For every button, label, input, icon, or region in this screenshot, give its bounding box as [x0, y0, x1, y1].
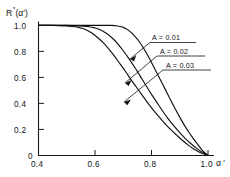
y-tick-label-1.0: 1.0 [14, 22, 26, 31]
curves-group [39, 25, 209, 155]
y-axis-label-arg: (α') [16, 8, 28, 18]
annotation-label-a-0.01: A = 0.01 [152, 33, 180, 42]
x-axis-label: α ' [216, 158, 225, 168]
chart-figure: R * (α') 1.0 0.8 0.6 0.4 0.2 0 [0, 0, 230, 177]
annotation-a-0.03: A = 0.03 [124, 61, 211, 106]
x-tick-label-0.6: 0.6 [88, 160, 100, 169]
x-tick-label-0.8: 0.8 [144, 160, 156, 169]
annotation-arrow-a-0.02 [125, 80, 132, 86]
x-axis-ticks [39, 150, 209, 156]
annotation-label-a-0.02: A = 0.02 [160, 47, 188, 56]
annotation-label-a-0.03: A = 0.03 [166, 61, 194, 70]
curve-a-0.02 [39, 25, 209, 155]
x-tick-label-0.4: 0.4 [31, 160, 43, 169]
x-axis-tick-labels: 0.4 0.6 0.8 1.0 [31, 160, 213, 169]
y-tick-label-0.6: 0.6 [14, 74, 26, 83]
y-axis-tick-labels: 1.0 0.8 0.6 0.4 0.2 0 [14, 22, 33, 161]
y-tick-label-0.4: 0.4 [14, 100, 26, 109]
annotation-arrow-a-0.03 [124, 100, 131, 106]
y-tick-label-0.2: 0.2 [14, 126, 26, 135]
x-tick-label-1.0: 1.0 [201, 160, 213, 169]
y-axis-ticks [39, 25, 45, 129]
annotation-leader-a-0.01 [130, 43, 150, 60]
chart-svg: R * (α') 1.0 0.8 0.6 0.4 0.2 0 [0, 0, 230, 177]
y-axis-label-r: R [6, 8, 12, 18]
y-tick-label-0.8: 0.8 [14, 48, 26, 57]
y-axis-label: R * (α') [6, 6, 28, 18]
